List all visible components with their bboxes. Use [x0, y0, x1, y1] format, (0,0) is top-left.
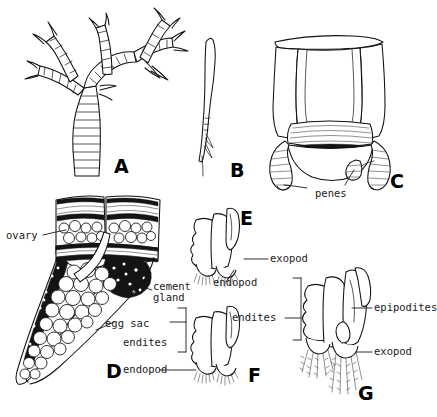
panel-c-drawing	[270, 36, 391, 191]
label-ovary: ovary	[6, 230, 38, 242]
setae-g-barbs	[300, 356, 358, 390]
setae-g	[302, 350, 362, 394]
endites-bracket-g	[293, 278, 301, 340]
panel-f-drawing	[170, 306, 240, 385]
panel-letter-f: F	[248, 364, 261, 386]
label-egg-sac: egg sac	[105, 318, 149, 330]
panel-g-drawing	[285, 268, 371, 394]
label-epipodites-g: epipodites	[374, 302, 437, 314]
label-cement-gland-line2: gland	[153, 292, 185, 304]
panel-letter-d: D	[106, 360, 122, 382]
label-penes: penes	[315, 188, 347, 200]
label-exopod-g: exopod	[374, 346, 412, 358]
label-endopod-e: endopod	[213, 277, 257, 289]
label-endopod-f: endopod	[123, 364, 167, 376]
panel-letter-g: G	[358, 382, 374, 404]
label-endites-f: endites	[123, 337, 167, 349]
panel-d-drawing	[16, 196, 160, 384]
panel-letter-b: B	[230, 159, 244, 181]
label-endites-g: endites	[232, 312, 276, 324]
panel-letter-c: C	[390, 170, 404, 192]
label-exopod-e: exopod	[270, 253, 308, 265]
panel-a-drawing	[25, 8, 188, 176]
panel-b-drawing	[199, 38, 215, 176]
panel-letter-e: E	[240, 207, 253, 229]
panel-letter-a: A	[114, 155, 129, 177]
endites-bracket-f	[178, 308, 186, 352]
